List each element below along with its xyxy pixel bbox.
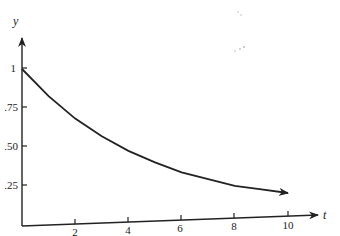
y-tick-label: 1 <box>11 62 17 74</box>
x-axis <box>22 215 318 226</box>
x-tick-label: 2 <box>72 226 78 236</box>
decay-curve <box>22 69 288 193</box>
y-tick-label: .50 <box>4 140 18 152</box>
y-tick-label: .75 <box>4 101 18 113</box>
y-axis-label: y <box>12 14 19 28</box>
scan-artifacts <box>234 11 245 52</box>
y-ticks <box>22 68 27 185</box>
y-tick-label: .25 <box>4 179 18 191</box>
x-axis-label: t <box>323 208 327 222</box>
x-tick-label: 4 <box>125 224 131 236</box>
x-tick-label: 10 <box>283 219 295 231</box>
decay-chart: y t 1 .75 .50 .25 2 4 6 8 10 <box>0 0 340 236</box>
x-tick-label: 8 <box>231 220 237 232</box>
x-tick-label: 6 <box>177 222 183 234</box>
